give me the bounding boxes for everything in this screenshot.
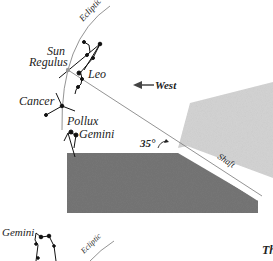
west-arrow-icon [133, 81, 154, 89]
gemini-lower-label: Gemini [2, 226, 34, 238]
leo-label: Leo [87, 67, 106, 81]
angle-label: 35° [139, 137, 156, 149]
astronomy-diagram: Ecliptic Sun Regulus Leo West Cancer Pol… [0, 0, 273, 261]
pollux-label: Pollux [66, 114, 99, 128]
cut-off-text: Th [262, 243, 273, 257]
gemini-upper-constellation [64, 130, 78, 157]
west-label: West [155, 79, 177, 91]
ecliptic-label-top: Ecliptic [76, 0, 103, 24]
gemini-lower-constellation [35, 233, 56, 261]
cancer-label: Cancer [19, 94, 55, 108]
ecliptic-label-bottom: Ecliptic [78, 231, 103, 256]
regulus-label: Regulus [28, 55, 68, 69]
gemini-upper-label: Gemini [79, 127, 114, 141]
